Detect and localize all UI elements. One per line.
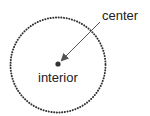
- pointer-arrow: [62, 22, 100, 60]
- center-label: center: [102, 9, 138, 22]
- center-point: [55, 61, 60, 66]
- interior-label: interior: [38, 71, 78, 84]
